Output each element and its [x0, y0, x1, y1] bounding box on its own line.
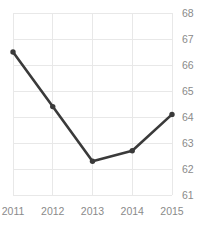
- x-axis-tick-label: 2011: [0, 206, 35, 217]
- y-axis-tick-label: 66: [182, 60, 202, 70]
- x-axis-tick-label: 2014: [110, 206, 154, 217]
- data-point-marker[interactable]: [169, 112, 174, 117]
- x-axis-tick-label: 2012: [31, 206, 75, 217]
- data-point-marker[interactable]: [50, 104, 55, 109]
- y-axis-tick-label: 65: [182, 86, 202, 96]
- y-axis-tick-label: 62: [182, 164, 202, 174]
- y-axis-tick-label: 64: [182, 112, 202, 122]
- y-axis-tick-label: 67: [182, 34, 202, 44]
- data-point-marker[interactable]: [130, 148, 135, 153]
- series-line: [13, 52, 172, 161]
- chart-title: [0, 0, 180, 5]
- y-axis-tick-label: 61: [182, 190, 202, 200]
- data-point-marker[interactable]: [10, 49, 15, 54]
- x-axis-tick-label: 2015: [150, 206, 194, 217]
- data-series: [13, 13, 172, 195]
- data-point-marker[interactable]: [90, 159, 95, 164]
- y-axis-tick-label: 63: [182, 138, 202, 148]
- y-axis-tick-label: 68: [182, 8, 202, 18]
- x-axis-tick-label: 2013: [71, 206, 115, 217]
- plot-area: [13, 13, 172, 195]
- line-chart: 6162636465666768 20112012201320142015: [0, 0, 203, 226]
